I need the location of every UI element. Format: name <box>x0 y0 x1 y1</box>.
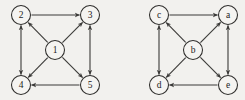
node-2: 2 <box>12 6 31 25</box>
node-1: 1 <box>46 41 65 60</box>
node-d: d <box>150 76 169 95</box>
figure-canvas: 23451cadeb <box>0 0 245 100</box>
edge-b-to-a <box>200 22 220 42</box>
node-5: 5 <box>81 76 100 95</box>
node-c: c <box>150 6 169 25</box>
edge-b-to-e <box>200 57 220 77</box>
nodes-layer: 23451cadeb <box>12 6 238 95</box>
node-label-4: 4 <box>19 80 24 90</box>
edge-n1-to-n2 <box>28 23 47 43</box>
node-b: b <box>184 41 203 60</box>
node-label-b: b <box>191 45 196 55</box>
node-label-2: 2 <box>19 10 24 20</box>
node-label-c: c <box>157 10 161 20</box>
edge-n1-to-n5 <box>62 57 82 77</box>
node-label-1: 1 <box>53 45 58 55</box>
edge-n1-to-n4 <box>28 58 47 78</box>
node-label-e: e <box>226 80 230 90</box>
edge-b-to-d <box>166 58 185 78</box>
node-3: 3 <box>81 6 100 25</box>
node-label-5: 5 <box>88 80 93 90</box>
edge-b-to-c <box>166 23 185 43</box>
node-a: a <box>219 6 238 25</box>
node-4: 4 <box>12 76 31 95</box>
node-label-d: d <box>157 80 162 90</box>
node-e: e <box>219 76 238 95</box>
graph-isomorphism-figure: 23451cadeb <box>0 0 245 100</box>
edge-n1-to-n3 <box>62 22 82 42</box>
node-label-3: 3 <box>88 10 93 20</box>
